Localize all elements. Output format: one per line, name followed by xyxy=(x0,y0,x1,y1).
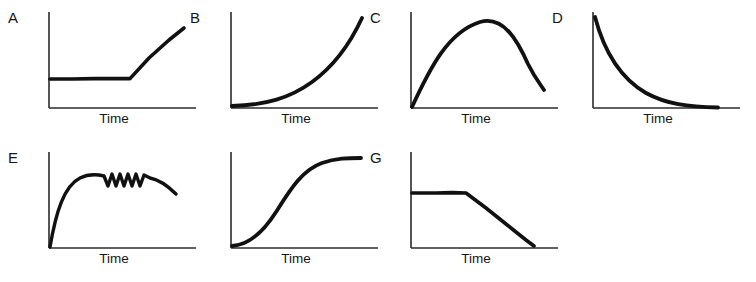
curve-g xyxy=(412,193,534,246)
panel-f: Time xyxy=(206,146,386,278)
panel-c: C Time xyxy=(386,6,566,138)
x-axis-label-g: Time xyxy=(386,252,566,266)
curve-d xyxy=(595,17,718,108)
curve-b xyxy=(232,18,362,106)
x-axis-label-a: Time xyxy=(24,112,204,126)
x-axis-label-f: Time xyxy=(206,252,386,266)
panel-e: E Time xyxy=(24,146,204,278)
panel-label-a: A xyxy=(8,10,18,25)
panel-label-b: B xyxy=(190,10,200,25)
curve-f xyxy=(232,158,361,246)
panel-label-d: D xyxy=(552,10,563,25)
panel-d: D Time xyxy=(568,6,748,138)
figure-canvas: A Time B Time C Time D xyxy=(0,0,756,282)
panel-label-e: E xyxy=(8,150,18,165)
x-axis-label-d: Time xyxy=(568,112,748,126)
panel-label-c: C xyxy=(370,10,381,25)
panel-g: G Time xyxy=(386,146,566,278)
panel-label-g: G xyxy=(370,150,382,165)
curve-a xyxy=(50,28,184,79)
x-axis-label-e: Time xyxy=(24,252,204,266)
x-axis-label-b: Time xyxy=(206,112,386,126)
curve-e xyxy=(50,174,176,247)
panel-b: B Time xyxy=(206,6,386,138)
x-axis-label-c: Time xyxy=(386,112,566,126)
panel-a: A Time xyxy=(24,6,204,138)
curve-c xyxy=(412,21,544,107)
